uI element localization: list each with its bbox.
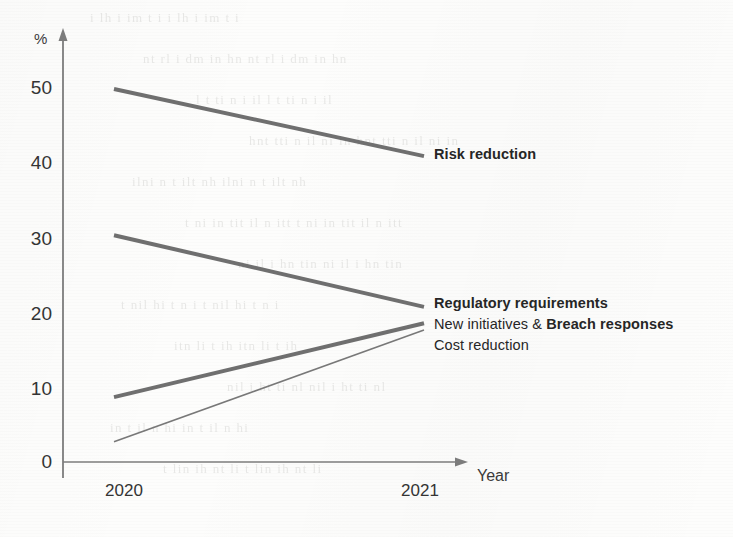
y-tick-label-0: 0	[12, 451, 52, 473]
y-axis-unit-label: %	[34, 30, 47, 47]
series-line-regulatory-requirements	[114, 235, 424, 307]
x-axis-label: Year	[477, 467, 509, 485]
y-tick-label-30: 30	[12, 228, 52, 250]
y-tick-label-40: 40	[12, 152, 52, 174]
series-line-risk-reduction	[114, 89, 424, 156]
x-axis	[63, 458, 468, 467]
y-tick-label-10: 10	[12, 378, 52, 400]
series-label-cost-reduction: Cost reduction	[434, 337, 529, 353]
y-axis	[59, 28, 68, 478]
x-tick-label-2020: 2020	[89, 481, 159, 501]
y-tick-label-20: 20	[12, 303, 52, 325]
x-tick-label-2021: 2021	[385, 481, 455, 501]
line-chart	[0, 0, 733, 537]
series-label-risk-reduction: Risk reduction	[434, 146, 536, 162]
series-lines	[114, 89, 424, 442]
series-label-new-initiatives-breach-responses: New initiatives & Breach responses	[434, 316, 674, 332]
series-label-regulatory-requirements: Regulatory requirements	[434, 295, 608, 311]
y-tick-label-50: 50	[12, 77, 52, 99]
